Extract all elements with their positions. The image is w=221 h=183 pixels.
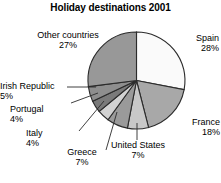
- pie-label-portugal-value: 4%: [10, 114, 70, 124]
- pie-label-greece-name: Greece: [58, 147, 106, 157]
- pie-label-portugal: Portugal 4%: [10, 104, 70, 124]
- pie-label-united-states-name: United States: [104, 140, 172, 150]
- pie-label-other-countries-name: Other countries: [22, 30, 114, 40]
- pie-label-italy: Italy 4%: [26, 128, 78, 148]
- pie-label-spain: Spain 28%: [175, 33, 219, 53]
- pie-label-france-name: France: [176, 117, 220, 127]
- pie-label-italy-name: Italy: [26, 128, 78, 138]
- pie-label-irish-republic: Irish Republic 5%: [0, 81, 66, 101]
- leader-line-italy: [79, 101, 104, 131]
- pie-label-united-states-value: 7%: [104, 150, 172, 160]
- pie-label-greece-value: 7%: [58, 157, 106, 167]
- pie-chart: Holiday destinations 2001 Other countrie…: [0, 0, 221, 183]
- pie-label-united-states: United States 7%: [104, 140, 172, 160]
- pie-label-other-countries-value: 27%: [22, 40, 114, 50]
- pie-label-spain-name: Spain: [175, 33, 219, 43]
- pie-label-france: France 18%: [176, 117, 220, 137]
- pie-label-irish-republic-value: 5%: [0, 91, 66, 101]
- pie-label-irish-republic-name: Irish Republic: [0, 81, 66, 91]
- pie-label-greece: Greece 7%: [58, 147, 106, 167]
- pie-label-other-countries: Other countries 27%: [22, 30, 114, 50]
- pie-label-france-value: 18%: [176, 127, 220, 137]
- pie-label-spain-value: 28%: [175, 43, 219, 53]
- pie-label-portugal-name: Portugal: [10, 104, 70, 114]
